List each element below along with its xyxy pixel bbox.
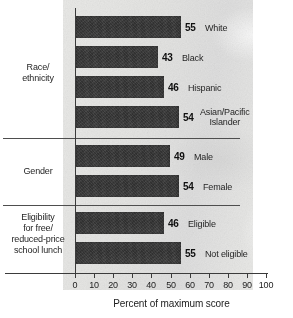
- bar-not-eligible: [76, 242, 181, 264]
- bar-label-asian-line-2: Islander: [200, 117, 250, 127]
- x-tick-30: [132, 273, 133, 278]
- x-tick-0: [75, 273, 76, 278]
- x-tick-90: [247, 273, 248, 278]
- x-tick-label-50: 50: [161, 280, 181, 290]
- group-label-lunch-eligibility: Eligibility for free/ reduced-price scho…: [2, 212, 74, 256]
- bar-value-asian-pacific-islander: 54: [183, 112, 194, 123]
- bar-value-male: 49: [174, 151, 185, 162]
- bar-label-male: Male: [194, 152, 213, 162]
- x-tick-label-10: 10: [84, 280, 104, 290]
- bar-label-white: White: [205, 23, 227, 33]
- bar-label-asian-pacific-islander: Asian/Pacific Islander: [200, 107, 250, 127]
- x-tick-label-30: 30: [122, 280, 142, 290]
- bar-label-hispanic: Hispanic: [188, 83, 221, 93]
- group-separator-2: [3, 205, 240, 206]
- bar-value-hispanic: 46: [168, 82, 179, 93]
- group-label-lunch-line-1: Eligibility: [2, 212, 74, 223]
- x-tick-40: [151, 273, 152, 278]
- bar-asian-pacific-islander: [76, 106, 179, 128]
- x-tick-100: [266, 273, 267, 278]
- x-tick-label-40: 40: [141, 280, 161, 290]
- x-tick-label-90: 90: [237, 280, 257, 290]
- x-tick-label-100: 100: [256, 280, 276, 290]
- bar-label-female: Female: [203, 182, 232, 192]
- bar-value-eligible: 46: [168, 218, 179, 229]
- x-tick-label-20: 20: [103, 280, 123, 290]
- bar-value-not-eligible: 55: [185, 248, 196, 259]
- group-label-race-line-2: ethnicity: [2, 73, 74, 84]
- x-tick-20: [113, 273, 114, 278]
- bar-female: [76, 175, 179, 197]
- plot-area: 0 10 20 30 40 50 60 70 80 90 100 Percent…: [0, 0, 293, 318]
- bar-value-black: 43: [162, 52, 173, 63]
- group-label-race-ethnicity: Race/ ethnicity: [2, 62, 74, 84]
- bar-label-black: Black: [182, 53, 203, 63]
- x-tick-70: [209, 273, 210, 278]
- x-tick-label-0: 0: [65, 280, 85, 290]
- group-separator-1: [3, 138, 240, 139]
- group-label-lunch-line-3: reduced-price: [2, 234, 74, 245]
- bar-value-female: 54: [183, 181, 194, 192]
- bar-label-eligible: Eligible: [188, 219, 216, 229]
- group-label-lunch-line-2: for free/: [2, 223, 74, 234]
- group-label-race-line-1: Race/: [2, 62, 74, 73]
- group-label-gender-line-1: Gender: [2, 166, 74, 177]
- bar-label-not-eligible: Not eligible: [205, 249, 248, 259]
- x-tick-label-80: 80: [218, 280, 238, 290]
- bar-value-white: 55: [185, 22, 196, 33]
- bar-eligible: [76, 212, 164, 234]
- group-label-lunch-line-4: school lunch: [2, 245, 74, 256]
- bar-white: [76, 16, 181, 38]
- bar-label-asian-line-1: Asian/Pacific: [200, 107, 250, 117]
- x-axis-title: Percent of maximum score: [75, 298, 268, 309]
- bar-black: [76, 46, 158, 68]
- bar-male: [76, 145, 170, 167]
- bar-chart-figure: 0 10 20 30 40 50 60 70 80 90 100 Percent…: [0, 0, 293, 318]
- x-tick-label-70: 70: [199, 280, 219, 290]
- x-tick-60: [190, 273, 191, 278]
- x-tick-50: [171, 273, 172, 278]
- group-label-gender: Gender: [2, 166, 74, 177]
- x-tick-10: [94, 273, 95, 278]
- x-tick-80: [228, 273, 229, 278]
- x-tick-label-60: 60: [180, 280, 200, 290]
- bar-hispanic: [76, 76, 164, 98]
